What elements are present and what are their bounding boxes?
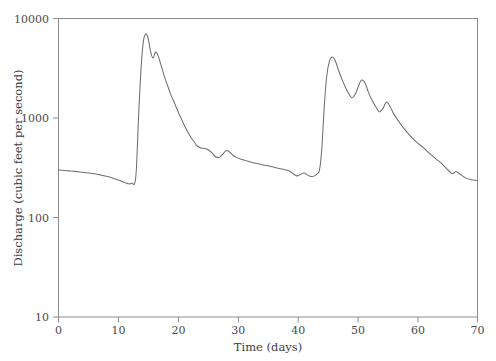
y-tick-label-1000: 1000 <box>21 112 49 125</box>
x-tick-label-0: 0 <box>55 324 62 337</box>
chart-background <box>0 0 496 361</box>
x-tick-label-20: 20 <box>171 324 185 337</box>
y-axis-title: Discharge (cubic feet per second) <box>11 69 25 266</box>
y-tick-label-10000: 10000 <box>14 13 49 26</box>
y-tick-label-100: 100 <box>28 212 49 225</box>
x-tick-label-50: 50 <box>351 324 365 337</box>
chart-figure: 10000 1000 100 10 0 10 20 30 40 50 60 70 <box>0 0 496 361</box>
discharge-hydrograph-chart: 10000 1000 100 10 0 10 20 30 40 50 60 70 <box>0 0 496 361</box>
x-tick-label-10: 10 <box>112 324 126 337</box>
x-tick-label-70: 70 <box>471 324 485 337</box>
x-tick-label-30: 30 <box>231 324 245 337</box>
x-axis-title: Time (days) <box>234 340 302 354</box>
x-tick-label-60: 60 <box>411 324 425 337</box>
x-tick-label-40: 40 <box>291 324 305 337</box>
y-tick-label-10: 10 <box>35 311 49 324</box>
